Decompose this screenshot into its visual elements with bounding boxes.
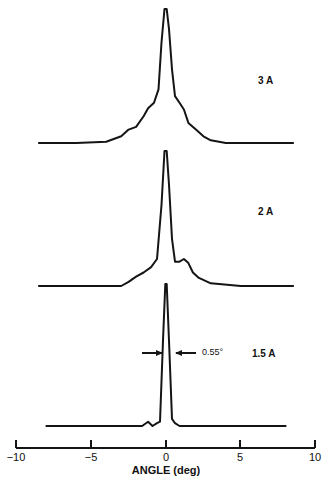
tick-label-neg10: −10 bbox=[7, 451, 26, 463]
label-2a: 2 A bbox=[258, 206, 273, 217]
chart-plot-area bbox=[0, 0, 333, 492]
label-3a: 3 A bbox=[258, 75, 273, 86]
tick-label-5: 5 bbox=[237, 451, 243, 463]
tick-label-neg5: −5 bbox=[85, 451, 98, 463]
tick-label-10: 10 bbox=[309, 451, 321, 463]
x-axis-label: ANGLE (deg) bbox=[132, 464, 200, 476]
trace-3a bbox=[39, 9, 293, 143]
tick-label-0: 0 bbox=[163, 451, 169, 463]
x-axis bbox=[16, 440, 315, 448]
label-1-5a: 1.5 A bbox=[252, 348, 276, 359]
trace-1-5a bbox=[46, 284, 285, 426]
fwhm-label: 0.55° bbox=[202, 347, 223, 357]
trace-2a bbox=[39, 151, 293, 286]
